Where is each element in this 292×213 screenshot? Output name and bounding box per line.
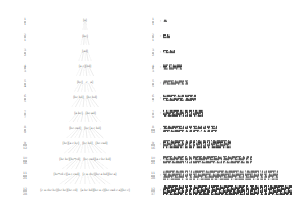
matrix-grid — [163, 80, 189, 85]
tree-node: [bc cad][a c bc bd] — [83, 158, 111, 162]
tree-node: a] — [90, 81, 94, 85]
tree-node-group: [bc cad][bc [a c bd] — [26, 127, 144, 131]
matrix-block — [163, 35, 170, 39]
matrix-block — [217, 171, 244, 180]
matrix-block — [163, 20, 167, 23]
matrix-block — [163, 65, 168, 70]
tree-node-group: [bc bc][bc*cd][bc cad][a c bc bd] — [26, 158, 144, 162]
fraction-denominator: 37 — [151, 192, 156, 195]
matrix-cell — [229, 147, 230, 148]
matrix-block — [163, 95, 185, 101]
matrix-block — [163, 80, 189, 85]
matrix-row: 43: — [146, 60, 292, 74]
matrix-cell — [174, 52, 175, 53]
matrix-block-line — [217, 178, 244, 179]
matrix-row-separator: : — [160, 173, 161, 177]
tree-level-row: 21[bc] — [0, 29, 146, 43]
matrix-grid — [163, 171, 279, 180]
matrix-cell — [168, 37, 169, 38]
matrix-row-label: 1237 — [147, 181, 159, 200]
tree-node: [bc [a c bd] — [84, 127, 101, 131]
matrix-block — [163, 171, 217, 180]
tree-level-row: 77[a bc][bc ad] — [0, 106, 146, 120]
matrix-row-label-fraction: 79 — [152, 110, 155, 118]
matrix-block-line — [201, 131, 217, 132]
tree-node: [bc bc][bc*cd] — [59, 158, 81, 162]
fraction-denominator: 7 — [152, 100, 155, 103]
matrix-row: 79: — [146, 106, 292, 120]
matrix-block-line — [163, 194, 209, 195]
fraction-denominator: 12 — [23, 146, 28, 149]
matrix-row: 32: — [146, 45, 292, 59]
fraction-numerator: 11 — [151, 172, 156, 175]
matrix-block-line — [163, 178, 217, 179]
matrix-grid — [163, 126, 218, 132]
matrix-block — [185, 95, 196, 101]
matrix-block — [250, 185, 292, 195]
fraction-denominator: 1 — [152, 38, 155, 41]
matrix-row-label-fraction: 67 — [152, 95, 155, 103]
matrix-row-label-fraction: 11 — [152, 18, 155, 26]
matrix-row-separator: : — [160, 50, 161, 54]
matrix-cell — [251, 162, 252, 163]
matrix-row-label-fraction: 32 — [152, 49, 155, 57]
tree-node: [bc bd] — [86, 96, 97, 100]
matrix-block-line — [245, 178, 279, 179]
matrix-row-separator: : — [160, 188, 161, 192]
fraction-denominator: 12 — [151, 131, 156, 134]
fraction-denominator: 5 — [24, 100, 27, 103]
tree-node: [a bc bd][bc a c][bc cad c a][bc c] — [80, 189, 130, 193]
tree-node: [bc] — [77, 81, 84, 85]
fraction-denominator: 16 — [23, 161, 28, 164]
matrix-block-line — [163, 115, 203, 116]
matrix-row: 1237: — [146, 183, 292, 197]
fraction-denominator: 4 — [24, 84, 27, 87]
matrix-block-line — [163, 100, 185, 101]
fraction-denominator: 9 — [152, 115, 155, 118]
fraction-denominator: 7 — [24, 115, 27, 118]
matrix-grid — [163, 35, 170, 39]
fraction-numerator: 10 — [151, 157, 156, 160]
matrix-block — [201, 126, 217, 132]
matrix-row: 21: — [146, 29, 292, 43]
matrix-block — [163, 126, 201, 132]
tree-node-group: [bc]ca] — [26, 81, 144, 85]
fraction-denominator: 1 — [152, 23, 155, 26]
matrix-block — [163, 156, 222, 164]
tree-node: [bc][a c bc] — [62, 142, 79, 146]
matrix-block-line — [209, 194, 249, 195]
matrix-block-line — [163, 52, 175, 53]
tree-level-row: 65[bc bd][bc bd] — [0, 91, 146, 105]
matrix-grid — [163, 156, 253, 164]
matrix-cell — [202, 115, 203, 116]
matrix-block-line — [163, 162, 222, 163]
fraction-numerator: 4 — [152, 64, 155, 67]
fraction-denominator: 21 — [23, 177, 28, 180]
tree-node: [a] — [83, 19, 88, 23]
matrix-row-separator: : — [160, 127, 161, 131]
matrix-row-separator: : — [160, 96, 161, 100]
tree-level-row: 11[a] — [0, 14, 146, 28]
matrix-row-label-fraction: 21 — [152, 33, 155, 41]
matrix-cell — [166, 21, 167, 22]
matrix-block-line — [169, 68, 182, 69]
matrix-grid — [163, 185, 292, 195]
fraction-numerator: 6 — [152, 95, 155, 98]
tree-node: [a c][bd] — [78, 65, 91, 69]
matrix-grid — [163, 95, 196, 101]
matrix-block-line — [163, 147, 195, 148]
matrix-row: 55: — [146, 76, 292, 90]
matrix-block — [163, 140, 195, 148]
tree-node-group: [bc bd][bc bd] — [26, 96, 144, 100]
fraction-denominator: 3 — [24, 69, 27, 72]
matrix-row: 1128: — [146, 168, 292, 182]
matrix-block — [245, 171, 279, 180]
matrix-row-label-fraction: 43 — [152, 64, 155, 72]
fraction-denominator: 2 — [152, 54, 155, 57]
fraction-numerator: 7 — [152, 110, 155, 113]
matrix-row: 1021: — [146, 153, 292, 167]
matrix-grid — [163, 110, 204, 116]
matrix-row-label-fraction: 1021 — [151, 157, 156, 165]
matrix-block — [163, 50, 175, 54]
tree-node: c — [85, 81, 87, 85]
